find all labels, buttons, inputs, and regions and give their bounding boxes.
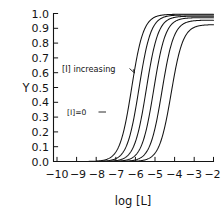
curve-line [54,15,214,162]
y-tick-label: 0.9 [32,22,50,35]
curve-line [54,14,214,161]
y-tick-label: 0.8 [32,37,50,50]
y-tick-label: 0.3 [32,111,50,124]
y-tick-label: 1.0 [32,8,50,21]
y-axis-title: Y [21,81,30,95]
x-tick-labels: −10 −9 −8 −7 −6 −5 −4 −3 −2 [45,168,220,181]
y-tick-labels: 1.0 0.9 0.8 0.7 0.6 0.5 0.4 0.3 0.2 0.1 … [32,8,50,169]
curve-family [54,14,214,161]
x-tick-label: −5 [147,168,163,181]
curve-line [54,25,214,162]
y-tick-label: 0.4 [32,96,50,109]
curve-line [54,18,214,162]
y-tick-label: 0.5 [32,82,50,95]
x-tick-label: −4 [166,168,182,181]
annotation-increasing: [I] increasing [62,64,135,74]
x-tick-label: −3 [186,168,202,181]
x-tick-label: −9 [70,168,86,181]
curve-line [54,20,214,161]
y-tick-label: 0.1 [32,141,50,154]
curve-line [54,16,214,161]
y-tick-label: 0.2 [32,126,50,139]
zero-inhibitor-annotation-text: [I]=0 [67,108,87,117]
axis-frame [54,14,214,162]
y-tick-label: 0.7 [32,52,50,65]
annotation-zero-inhibitor: [I]=0 [67,108,106,117]
x-tick-label: −6 [127,168,143,181]
dose-response-plot: 1.0 0.9 0.8 0.7 0.6 0.5 0.4 0.3 0.2 0.1 … [0,0,221,220]
y-tick-label: 0.6 [32,67,50,80]
x-tick-label: −2 [204,168,220,181]
axis-lines [54,14,214,162]
y-axis-ticks [54,14,59,162]
x-tick-label: −10 [45,168,68,181]
chart-figure: 1.0 0.9 0.8 0.7 0.6 0.5 0.4 0.3 0.2 0.1 … [0,0,221,220]
increasing-annotation-text: [I] increasing [62,64,116,74]
x-tick-label: −8 [89,168,105,181]
x-axis-title: log [L] [115,194,152,208]
x-tick-label: −7 [108,168,124,181]
